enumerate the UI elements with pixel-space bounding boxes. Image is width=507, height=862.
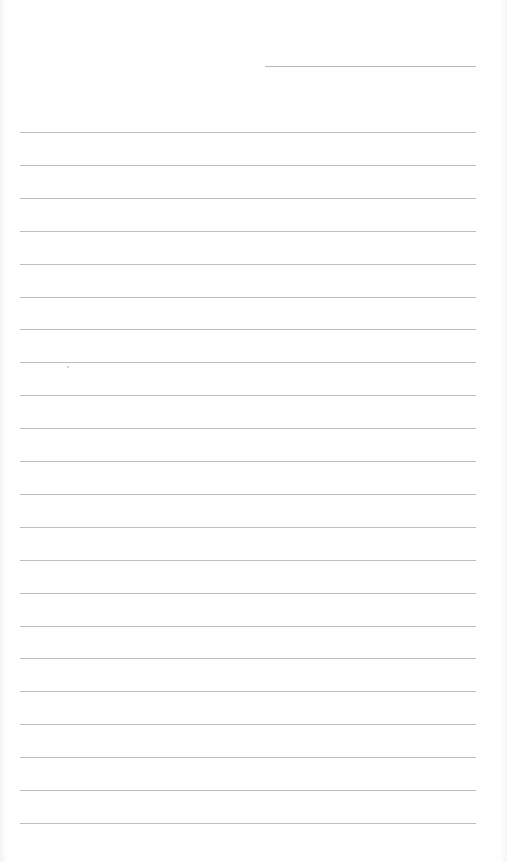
ruled-line [20, 691, 476, 692]
ruled-line [20, 395, 476, 396]
ruled-line [20, 527, 476, 528]
ruled-line [20, 560, 476, 561]
ruled-line [20, 165, 476, 166]
ruled-line [20, 198, 476, 199]
ruled-line [20, 658, 476, 659]
ruled-line [20, 362, 476, 363]
ruled-line [20, 757, 476, 758]
ruled-line [20, 494, 476, 495]
ruled-line [20, 461, 476, 462]
ruled-line [20, 329, 476, 330]
date-line [265, 66, 476, 67]
ruled-line [20, 231, 476, 232]
ruled-line [20, 297, 476, 298]
ruled-line [20, 626, 476, 627]
ruled-line [20, 132, 476, 133]
ruled-line [20, 724, 476, 725]
ruled-line [20, 428, 476, 429]
lined-paper-sheet [0, 0, 507, 862]
ruled-line [20, 593, 476, 594]
ruled-line [20, 264, 476, 265]
paper-speck [67, 366, 69, 368]
ruled-line [20, 790, 476, 791]
ruled-line [20, 823, 476, 824]
